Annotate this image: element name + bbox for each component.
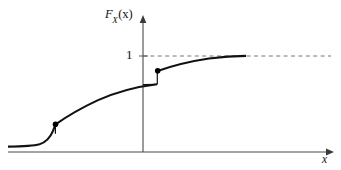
right-curve bbox=[158, 56, 246, 71]
y-axis-label: FX(x) bbox=[105, 8, 133, 24]
plot-canvas bbox=[0, 0, 341, 170]
jump-1-dot bbox=[53, 122, 59, 128]
cdf-figure: FX(x) 1 x bbox=[0, 0, 341, 170]
x-axis-arrowhead-icon bbox=[326, 149, 334, 156]
y-axis-label-argument: (x) bbox=[118, 7, 133, 21]
x-axis-label: x bbox=[322, 154, 327, 166]
y-axis-arrowhead-icon bbox=[140, 15, 147, 23]
jump-2-dot bbox=[155, 68, 161, 74]
middle-curve bbox=[56, 84, 157, 124]
y-tick-label-one: 1 bbox=[126, 48, 133, 61]
left-tail-curve bbox=[8, 125, 55, 146]
y-axis-label-subscript: X bbox=[112, 15, 118, 25]
